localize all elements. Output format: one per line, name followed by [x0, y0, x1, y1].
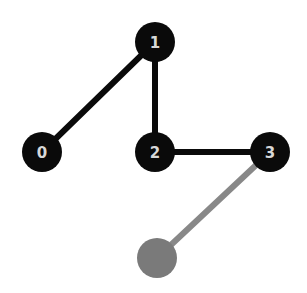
graph-node-1: 1: [135, 22, 175, 62]
graph-node-0: 0: [22, 132, 62, 172]
edge-1-0: [42, 42, 155, 152]
graph-node-3: 3: [250, 132, 290, 172]
graph-canvas: 0123: [0, 0, 307, 293]
node-label: 0: [37, 144, 47, 162]
node-label: 3: [265, 144, 275, 162]
graph-node-2: 2: [135, 132, 175, 172]
node-circle: [137, 238, 177, 278]
graph-node-4: [137, 238, 177, 278]
edge-3-4: [157, 152, 270, 258]
node-label: 1: [150, 34, 160, 52]
node-label: 2: [150, 144, 160, 162]
